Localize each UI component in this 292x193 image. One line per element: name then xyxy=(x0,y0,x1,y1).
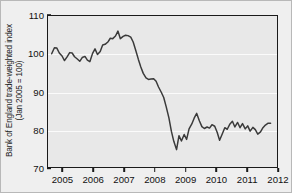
x-axis-tick-mark xyxy=(154,168,156,172)
figure-canvas: Bank of England trade-weighted index (Ja… xyxy=(0,0,292,193)
x-axis-tick-label: 2008 xyxy=(144,174,165,185)
data-series-line xyxy=(48,16,277,167)
x-axis-tick-mark xyxy=(216,168,218,172)
x-axis-tick-mark xyxy=(62,168,64,172)
y-axis-tick-label: 80 xyxy=(18,124,44,135)
y-axis-tick-label: 100 xyxy=(18,48,44,59)
x-axis-tick-mark xyxy=(246,168,248,172)
x-axis-tick-label: 2007 xyxy=(113,174,134,185)
x-axis-tick-label: 2010 xyxy=(206,174,227,185)
x-axis-tick-mark xyxy=(277,168,279,172)
y-axis-tick-label: 110 xyxy=(18,10,44,21)
y-axis-tick-label: 90 xyxy=(18,86,44,97)
y-axis-tick-label: 70 xyxy=(18,163,44,174)
x-axis-tick-label: 2005 xyxy=(52,174,73,185)
x-axis-tick-label: 2011 xyxy=(237,174,258,185)
x-axis-tick-mark xyxy=(123,168,125,172)
chart-figure: Bank of England trade-weighted index (Ja… xyxy=(0,0,292,193)
plot-area xyxy=(47,15,278,168)
x-axis-tick-label: 2009 xyxy=(175,174,196,185)
x-axis-tick-label: 2012 xyxy=(267,174,288,185)
series-polyline xyxy=(52,31,271,150)
y-axis-tick-labels: 708090100110 xyxy=(14,15,44,168)
x-axis-tick-mark xyxy=(92,168,94,172)
x-axis-tick-label: 2006 xyxy=(83,174,104,185)
x-axis-tick-mark xyxy=(185,168,187,172)
